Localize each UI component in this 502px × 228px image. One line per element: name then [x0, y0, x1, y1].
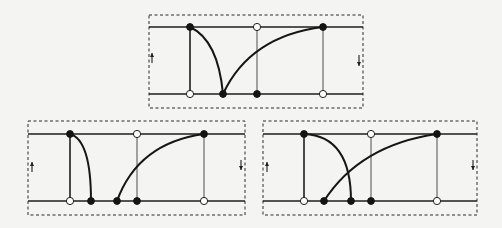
falling-arc-curve — [70, 134, 91, 201]
top-node-filled — [320, 24, 327, 31]
arrow-down-icon — [239, 160, 243, 170]
bottom-node-open — [300, 197, 307, 204]
bottom-node-open — [200, 197, 207, 204]
bottom-node-open — [319, 90, 326, 97]
top-node-open — [133, 130, 140, 137]
curve-endpoint-filled — [321, 198, 328, 205]
top-node-open — [253, 23, 260, 30]
curve-endpoint-filled — [220, 91, 227, 98]
top-node-open — [367, 130, 374, 137]
top-node-filled — [434, 131, 441, 138]
diagram-canvas — [0, 0, 502, 228]
top-node-filled — [187, 24, 194, 31]
rising-arc-curve — [223, 27, 323, 94]
diagram-panels — [28, 15, 477, 215]
top-node-filled — [301, 131, 308, 138]
rising-arc-curve — [324, 134, 437, 201]
top-node-filled — [201, 131, 208, 138]
bottom-node-open — [186, 90, 193, 97]
bottom-node-open — [66, 197, 73, 204]
curve-endpoint-filled — [88, 198, 95, 205]
arrow-up-icon — [150, 53, 154, 63]
arrow-down-icon — [357, 55, 361, 66]
arrow-up-icon — [30, 162, 34, 172]
bottom-node-filled — [254, 91, 261, 98]
top-node-filled — [67, 131, 74, 138]
curve-endpoint-filled — [114, 198, 121, 205]
panel-bottom-right — [263, 121, 477, 215]
bottom-node-filled — [368, 198, 375, 205]
bottom-node-filled — [134, 198, 141, 205]
rising-arc-curve — [117, 134, 204, 201]
arrow-up-icon — [265, 162, 269, 172]
falling-arc-curve — [304, 134, 351, 201]
bottom-node-open — [433, 197, 440, 204]
panel-top — [149, 15, 363, 108]
curve-endpoint-filled — [348, 198, 355, 205]
falling-arc-curve — [190, 27, 223, 94]
arrow-down-icon — [471, 160, 475, 170]
panel-bottom-left — [28, 121, 245, 215]
